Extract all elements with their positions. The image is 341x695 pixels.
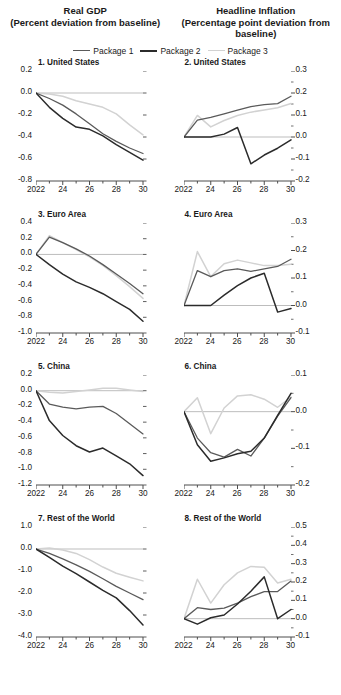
panel-grid: 1. United States0.20.0-0.2-0.4-0.6-0.820… bbox=[0, 58, 341, 666]
series-line-2 bbox=[36, 254, 143, 321]
y-tick-label-p7-3: -2.0 bbox=[18, 587, 32, 596]
plot-area-7 bbox=[36, 527, 155, 645]
left-column-subtitle: (Percent deviation from baseline) bbox=[0, 17, 171, 29]
plot-area-1 bbox=[36, 71, 155, 189]
panel-title-1: 1. United States bbox=[38, 58, 99, 67]
panel-title-8: 8. Rest of the World bbox=[185, 514, 262, 523]
y-tick-label-p3-6: -0.8 bbox=[18, 311, 32, 320]
y-tick-label-p3-3: -0.2 bbox=[18, 264, 32, 273]
y-tick-label-p3-2: 0.0 bbox=[21, 248, 32, 257]
chart-panel-3: 3. Euro Area0.40.20.0-0.2-0.4-0.6-0.8-1.… bbox=[0, 210, 171, 362]
y-tick-label-p7-0: 1.0 bbox=[21, 521, 32, 530]
y-tick-label-p1-5: -0.8 bbox=[18, 175, 32, 184]
y-tick-label-p1-4: -0.6 bbox=[18, 153, 32, 162]
y-tick-label-p3-7: -1.0 bbox=[18, 327, 32, 336]
legend-swatch-package-3 bbox=[208, 50, 225, 51]
right-column-subtitle: (Percentage point deviation from baselin… bbox=[171, 17, 341, 40]
legend-label-package-2: Package 2 bbox=[160, 46, 200, 56]
series-line-2 bbox=[184, 127, 291, 163]
y-tick-label-p1-3: -0.4 bbox=[18, 131, 32, 140]
series-line-1 bbox=[184, 96, 291, 137]
y-tick-label-p7-4: -3.0 bbox=[18, 609, 32, 618]
series-line-1 bbox=[36, 390, 143, 433]
y-tick-label-p5-6: -1.0 bbox=[18, 463, 32, 472]
series-line-1 bbox=[184, 581, 291, 619]
y-tick-label-p1-2: -0.2 bbox=[18, 109, 32, 118]
y-tick-label-p3-1: 0.2 bbox=[21, 233, 32, 242]
series-line-3 bbox=[184, 251, 291, 305]
series-line-3 bbox=[184, 394, 291, 433]
legend-item-package-3: Package 3 bbox=[208, 46, 268, 56]
y-tick-label-p5-7: -1.2 bbox=[18, 479, 32, 488]
panel-title-4: 4. Euro Area bbox=[185, 210, 233, 219]
panel-title-6: 6. China bbox=[185, 362, 217, 371]
y-tick-label-p3-5: -0.6 bbox=[18, 296, 32, 305]
right-column-title: Headline Inflation bbox=[171, 5, 341, 17]
chart-panel-8: 8. Rest of the World0.50.40.30.20.10.0-0… bbox=[171, 514, 341, 666]
legend-label-package-3: Package 3 bbox=[228, 46, 268, 56]
figure-root: Real GDP (Percent deviation from baselin… bbox=[0, 0, 341, 695]
y-tick-label-p5-1: 0.0 bbox=[21, 385, 32, 394]
plot-area-6 bbox=[184, 375, 303, 493]
plot-area-5 bbox=[36, 375, 155, 493]
panel-title-2: 2. United States bbox=[185, 58, 246, 67]
legend-swatch-package-2 bbox=[140, 50, 157, 52]
right-column-header: Headline Inflation (Percentage point dev… bbox=[171, 5, 341, 40]
column-headers: Real GDP (Percent deviation from baselin… bbox=[0, 0, 341, 40]
legend-item-package-2: Package 2 bbox=[140, 46, 200, 56]
y-tick-label-p3-0: 0.4 bbox=[21, 217, 32, 226]
series-line-1 bbox=[36, 549, 143, 600]
y-tick-label-p7-1: 0.0 bbox=[21, 543, 32, 552]
y-tick-label-p7-2: -1.0 bbox=[18, 565, 32, 574]
y-tick-label-p5-3: -0.4 bbox=[18, 416, 32, 425]
y-tick-label-p1-0: 0.2 bbox=[21, 65, 32, 74]
chart-panel-1: 1. United States0.20.0-0.2-0.4-0.6-0.820… bbox=[0, 58, 171, 210]
y-tick-label-p7-5: -4.0 bbox=[18, 631, 32, 640]
series-line-3 bbox=[36, 547, 143, 580]
series-line-2 bbox=[36, 390, 143, 475]
legend-item-package-1: Package 1 bbox=[73, 46, 133, 56]
y-tick-label-p3-4: -0.4 bbox=[18, 280, 32, 289]
y-tick-label-p5-5: -0.8 bbox=[18, 448, 32, 457]
plot-area-8 bbox=[184, 527, 303, 645]
left-column-header: Real GDP (Percent deviation from baselin… bbox=[0, 5, 171, 40]
chart-panel-7: 7. Rest of the World1.00.0-1.0-2.0-3.0-4… bbox=[0, 514, 171, 666]
legend-label-package-1: Package 1 bbox=[93, 46, 133, 56]
series-line-3 bbox=[184, 103, 291, 136]
panel-title-7: 7. Rest of the World bbox=[38, 514, 115, 523]
y-tick-label-p1-1: 0.0 bbox=[21, 87, 32, 96]
y-tick-label-p5-2: -0.2 bbox=[18, 400, 32, 409]
panel-title-5: 5. China bbox=[38, 362, 70, 371]
y-tick-label-p5-4: -0.6 bbox=[18, 432, 32, 441]
plot-area-4 bbox=[184, 223, 303, 341]
panel-title-3: 3. Euro Area bbox=[38, 210, 86, 219]
series-line-2 bbox=[36, 93, 143, 160]
chart-panel-2: 2. United States0.30.20.10.0-0.1-0.22022… bbox=[171, 58, 341, 210]
chart-panel-4: 4. Euro Area0.30.20.10.0-0.1202224262830 bbox=[171, 210, 341, 362]
chart-panel-6: 6. China0.10.0-0.1-0.2202224262830 bbox=[171, 362, 341, 514]
legend: Package 1 Package 2 Package 3 bbox=[0, 46, 341, 56]
plot-area-3 bbox=[36, 223, 155, 341]
y-tick-label-p5-0: 0.2 bbox=[21, 369, 32, 378]
series-line-2 bbox=[184, 273, 291, 312]
chart-panel-5: 5. China0.20.0-0.2-0.4-0.6-0.8-1.0-1.220… bbox=[0, 362, 171, 514]
plot-area-2 bbox=[184, 71, 303, 189]
legend-swatch-package-1 bbox=[73, 50, 90, 51]
left-column-title: Real GDP bbox=[0, 5, 171, 17]
